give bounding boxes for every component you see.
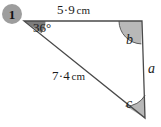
side-length-hypotenuse-unit: cm xyxy=(71,70,85,82)
side-length-label-top: 5·9cm xyxy=(57,3,90,16)
question-number-text: 1 xyxy=(9,8,16,21)
angle-label-b: b xyxy=(126,33,133,47)
angle-label-left: 36° xyxy=(33,21,51,34)
side-length-top-value: 5·9 xyxy=(57,2,75,17)
side-length-hypotenuse-value: 7·4 xyxy=(52,68,70,83)
side-length-label-hypotenuse: 7·4cm xyxy=(52,69,85,82)
side-length-top-unit: cm xyxy=(76,4,90,16)
geometry-figure: 1 5·9cm 7·4cm 36° b a c xyxy=(0,0,161,127)
triangle-diagram xyxy=(0,0,161,127)
question-number-badge: 1 xyxy=(2,4,22,24)
angle-label-c: c xyxy=(126,97,132,111)
side-length-label-a: a xyxy=(148,62,155,76)
